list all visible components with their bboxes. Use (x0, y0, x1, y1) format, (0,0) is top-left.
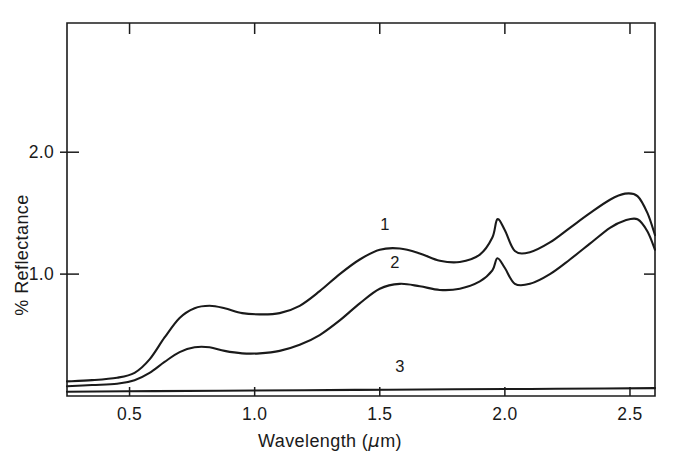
x-axis-tick-labels: 0.51.01.52.02.5 (117, 404, 643, 424)
spectrum-curve-2 (67, 218, 655, 386)
spectra-curves (67, 193, 655, 391)
x-tick-label: 0.5 (117, 404, 142, 424)
x-tick-label: 2.0 (492, 404, 517, 424)
frame-path (67, 23, 655, 396)
x-tick-label: 1.0 (242, 404, 267, 424)
x-axis-title-unit: m) (380, 431, 402, 451)
x-axis-title: Wavelength (μm) (258, 430, 402, 451)
y-axis-tick-labels: 1.02.0 (29, 142, 54, 284)
y-tick-label: 1.0 (29, 264, 54, 284)
curve-number-labels: 123 (380, 215, 404, 374)
x-axis-ticks-top (130, 23, 630, 34)
x-axis-title-mu: μ (367, 430, 380, 451)
curve-label-1: 1 (380, 215, 389, 233)
spectrum-curve-1 (67, 193, 655, 381)
x-tick-label: 1.5 (367, 404, 392, 424)
y-tick-label: 2.0 (29, 142, 54, 162)
plot-canvas: 0.51.01.52.02.5 1.02.0 123 Wavelength (μ… (0, 0, 677, 459)
axis-frame (67, 23, 655, 396)
y-axis-ticks-right (644, 152, 655, 274)
spectrum-curve-3 (67, 388, 655, 392)
reflectance-spectra-figure: 0.51.01.52.02.5 1.02.0 123 Wavelength (μ… (0, 0, 677, 459)
y-axis-ticks (60, 152, 79, 274)
x-axis-title-text: Wavelength ( (258, 431, 368, 451)
x-tick-label: 2.5 (617, 404, 642, 424)
curve-label-3: 3 (395, 357, 404, 375)
y-axis-title: % Reflectance (12, 194, 32, 315)
curve-label-2: 2 (390, 253, 399, 271)
